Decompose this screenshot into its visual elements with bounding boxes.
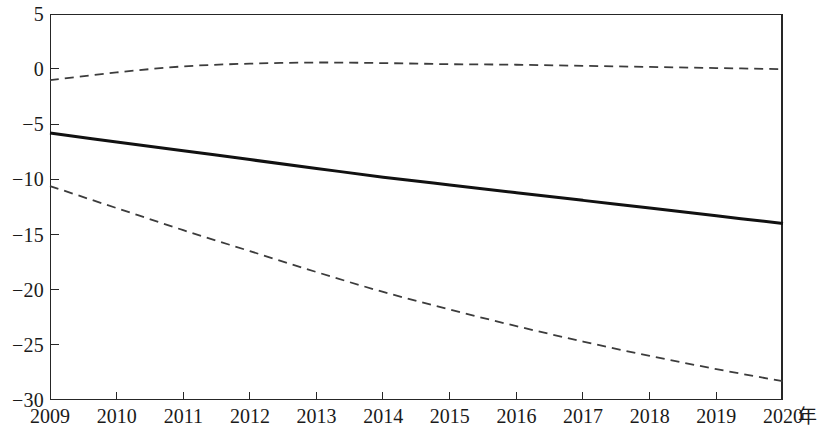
x-axis-tick-label: 2020: [763, 405, 803, 427]
y-axis-labels: 50−5−10−15−20−25−30: [0, 0, 44, 437]
x-axis-tick-label: 2017: [563, 405, 603, 427]
x-axis-tick-label: 2018: [630, 405, 670, 427]
x-axis-tick-label: 2015: [430, 405, 470, 427]
y-axis-tick-label: −10: [0, 169, 44, 189]
x-axis-tick-label: 2009: [30, 405, 70, 427]
y-axis-tick-label: 5: [0, 4, 44, 24]
y-axis-tick-label: −15: [0, 225, 44, 245]
x-axis-tick-label: 2016: [496, 405, 536, 427]
x-axis-tick-label: 2013: [297, 405, 337, 427]
x-axis-tick-label: 2012: [230, 405, 270, 427]
x-axis-tick-label: 2014: [363, 405, 403, 427]
x-axis-unit-label: 年: [798, 405, 817, 427]
y-axis-tick-label: 0: [0, 59, 44, 79]
y-axis-tick-label: −20: [0, 280, 44, 300]
series-line-central-forecast: [50, 133, 783, 223]
x-axis-tick-label: 2010: [97, 405, 137, 427]
x-axis-tick-label: 2011: [164, 405, 203, 427]
x-axis-tick-label: 2019: [696, 405, 736, 427]
series-line-lower-bound: [50, 186, 783, 381]
y-axis-tick-label: −25: [0, 335, 44, 355]
chart-container: 50−5−10−15−20−25−30 20092010201120122013…: [0, 0, 836, 437]
y-axis-tick-label: −5: [0, 114, 44, 134]
series-layer: [50, 14, 783, 400]
series-line-upper-bound: [50, 63, 783, 81]
